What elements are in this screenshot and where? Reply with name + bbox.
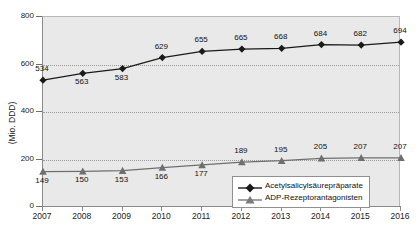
x-tick-label: 2015 bbox=[351, 212, 370, 221]
data-point-label: 655 bbox=[194, 36, 207, 44]
line-chart: 0200400600800 (Mio. DDD) 200720082009201… bbox=[0, 0, 419, 237]
y-tick-mark bbox=[36, 159, 42, 160]
y-tick-mark bbox=[36, 111, 42, 112]
diamond-marker-icon bbox=[237, 180, 263, 192]
data-point-label: 207 bbox=[393, 143, 406, 151]
data-point-label: 207 bbox=[354, 143, 367, 151]
data-point-label: 684 bbox=[314, 30, 327, 38]
y-tick-label: 0 bbox=[4, 202, 34, 210]
diamond-marker-icon bbox=[199, 48, 206, 55]
y-axis-title: (Mio. DDD) bbox=[7, 88, 17, 158]
legend-item-acetylsalicylsaeurepraeparate: Acetylsalicylsäurepräparate bbox=[237, 180, 363, 192]
y-tick-label: 600 bbox=[4, 60, 34, 68]
x-tick-mark bbox=[122, 206, 123, 211]
x-tick-label: 2008 bbox=[72, 212, 91, 221]
data-point-label: 665 bbox=[234, 34, 247, 42]
diamond-marker-icon bbox=[39, 77, 46, 84]
diamond-marker-icon bbox=[318, 41, 325, 48]
y-tick-mark bbox=[36, 16, 42, 17]
data-point-label: 205 bbox=[314, 143, 327, 151]
series-line bbox=[43, 158, 401, 172]
data-point-label: 153 bbox=[115, 176, 128, 184]
data-point-label: 534 bbox=[35, 65, 48, 73]
x-tick-label: 2016 bbox=[391, 212, 410, 221]
x-tick-mark bbox=[82, 206, 83, 211]
x-tick-mark bbox=[400, 206, 401, 211]
x-tick-label: 2014 bbox=[311, 212, 330, 221]
diamond-marker-icon bbox=[79, 70, 86, 77]
x-tick-label: 2010 bbox=[152, 212, 171, 221]
triangle-marker-icon bbox=[237, 192, 263, 204]
data-point-label: 668 bbox=[274, 33, 287, 41]
diamond-marker-icon bbox=[397, 39, 404, 46]
data-point-label: 694 bbox=[393, 27, 406, 35]
diamond-marker-icon bbox=[119, 65, 126, 72]
diamond-marker-icon bbox=[238, 45, 245, 52]
data-point-label: 166 bbox=[155, 173, 168, 181]
x-tick-label: 2011 bbox=[192, 212, 210, 221]
x-tick-mark bbox=[161, 206, 162, 211]
chart-legend: Acetylsalicylsäurepräparate ADP-Rezeptor… bbox=[232, 176, 370, 208]
data-point-label: 682 bbox=[354, 30, 367, 38]
legend-label: ADP-Rezeptorantagonisten bbox=[263, 194, 362, 202]
data-point-label: 177 bbox=[194, 170, 207, 178]
data-point-label: 563 bbox=[75, 78, 88, 86]
diamond-marker-icon bbox=[358, 41, 365, 48]
x-tick-mark bbox=[42, 206, 43, 211]
y-tick-label: 800 bbox=[4, 12, 34, 20]
data-point-label: 583 bbox=[115, 74, 128, 82]
x-tick-label: 2013 bbox=[271, 212, 290, 221]
diamond-marker-icon bbox=[159, 54, 166, 61]
series-line bbox=[43, 42, 401, 80]
data-point-label: 149 bbox=[35, 177, 48, 185]
legend-item-adp-rezeptorantagonisten: ADP-Rezeptorantagonisten bbox=[237, 192, 363, 204]
data-point-label: 189 bbox=[234, 147, 247, 155]
data-point-label: 150 bbox=[75, 176, 88, 184]
x-tick-label: 2009 bbox=[112, 212, 131, 221]
data-point-label: 195 bbox=[274, 146, 287, 154]
legend-label: Acetylsalicylsäurepräparate bbox=[263, 182, 363, 190]
x-tick-mark bbox=[201, 206, 202, 211]
diamond-marker-icon bbox=[278, 45, 285, 52]
x-tick-label: 2012 bbox=[231, 212, 250, 221]
data-point-label: 629 bbox=[155, 43, 168, 51]
x-tick-label: 2007 bbox=[33, 212, 52, 221]
